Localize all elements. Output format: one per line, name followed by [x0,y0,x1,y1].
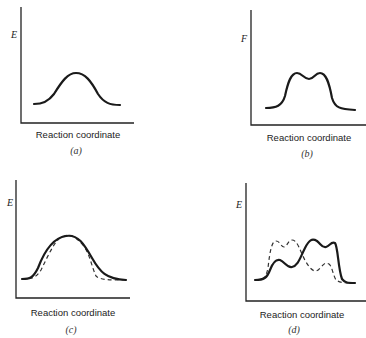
caption-a: (a) [70,145,82,157]
curve-b [266,73,355,110]
curve-c-dashed [22,235,126,280]
caption-b: (b) [301,148,313,160]
caption-c: (c) [65,324,77,336]
axes-c [16,180,130,298]
x-label-a: Reaction coordinate [36,129,121,140]
curve-a [34,73,120,105]
figure: E Reaction coordinate (a) F Reaction coo… [0,0,366,338]
caption-d: (d) [288,324,300,336]
y-label-a: E [10,29,17,40]
y-label-d: E [235,199,242,210]
panel-a: E Reaction coordinate (a) [10,7,134,157]
panel-c: E Reaction coordinate (c) [6,180,130,336]
y-label-b: F [240,33,248,44]
curve-d-solid [255,240,355,283]
x-label-c: Reaction coordinate [31,307,116,318]
x-label-d: Reaction coordinate [260,309,345,320]
panel-d: E Reaction coordinate (d) [235,183,366,336]
x-label-b: Reaction coordinate [267,132,352,143]
curve-c-solid [22,236,126,280]
y-label-c: E [6,197,13,208]
panel-b: F Reaction coordinate (b) [240,10,366,160]
